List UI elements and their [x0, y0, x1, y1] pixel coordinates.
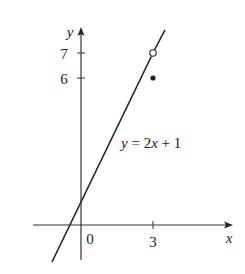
x-axis-label: x: [225, 230, 233, 246]
graph: 7 6 0 3 y x y = 2x + 1: [0, 0, 245, 274]
x-tick-label-3: 3: [149, 234, 157, 250]
y-axis-label: y: [65, 24, 74, 40]
y-tick-label-6: 6: [60, 71, 68, 87]
origin-label: 0: [86, 231, 94, 247]
equation-rest: + 1: [158, 135, 181, 151]
equation-eq: = 2: [128, 135, 151, 151]
function-line-upper: [155, 30, 165, 50]
filled-point: [150, 75, 155, 80]
open-point: [150, 50, 156, 56]
y-tick-label-7: 7: [60, 46, 68, 62]
function-line-lower: [52, 57, 151, 263]
equation-y: y: [119, 135, 128, 151]
equation-label: y = 2x + 1: [119, 135, 181, 151]
